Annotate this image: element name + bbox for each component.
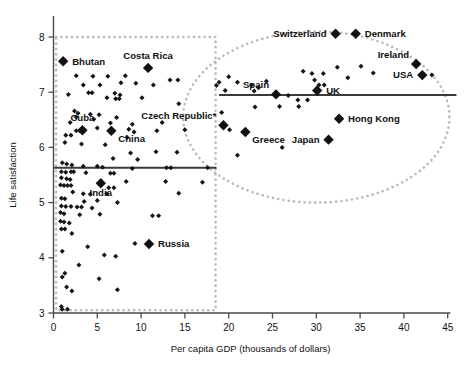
data-point: [81, 83, 86, 88]
data-point: [133, 81, 138, 86]
data-point: [227, 127, 232, 132]
data-point: [175, 78, 180, 83]
point-label: India: [90, 187, 113, 198]
data-point: [62, 227, 67, 232]
data-point: [69, 183, 74, 188]
point-label: China: [118, 133, 145, 144]
data-point: [69, 231, 74, 236]
data-point: [345, 75, 350, 80]
data-point: [111, 185, 116, 190]
x-tick-label: 15: [179, 322, 191, 333]
data-point: [95, 126, 100, 131]
data-point: [150, 213, 155, 218]
data-point: [139, 95, 144, 100]
data-point: [69, 204, 74, 209]
data-point: [79, 142, 84, 147]
data-point: [115, 200, 120, 205]
highlighted-point-marker: [218, 120, 228, 130]
highlighted-point-marker: [334, 113, 344, 123]
data-point: [60, 249, 65, 254]
data-point: [115, 287, 120, 292]
highlighted-point-marker: [271, 89, 281, 99]
highlighted-point-marker: [411, 59, 421, 69]
data-point: [277, 104, 282, 109]
data-point: [312, 78, 317, 83]
data-point: [103, 142, 108, 147]
data-point: [296, 104, 301, 109]
data-point: [295, 97, 300, 102]
x-tick-label: 10: [136, 322, 148, 333]
data-point: [153, 149, 158, 154]
data-point: [100, 165, 105, 170]
y-tick-label: 7: [39, 87, 45, 98]
data-point: [130, 122, 135, 127]
data-point: [176, 101, 181, 106]
data-point: [118, 92, 123, 97]
data-point: [97, 212, 102, 217]
highlighted-point-marker: [417, 70, 427, 80]
data-point: [59, 175, 64, 180]
y-axis-title: Life satisfaction: [7, 142, 18, 207]
data-point: [226, 74, 231, 79]
data-point: [113, 254, 118, 259]
data-point: [90, 74, 95, 79]
data-point: [301, 69, 306, 74]
data-point: [79, 205, 84, 210]
data-point: [60, 160, 65, 165]
point-labels: BhutanCosta RicaCubaChinaIndiaRussiaCzec…: [70, 28, 413, 249]
y-tick-label: 3: [39, 308, 45, 319]
region-poorer-countries-box: [56, 37, 215, 310]
data-point: [200, 180, 205, 185]
highlight-regions: [56, 31, 449, 310]
data-point: [168, 78, 173, 83]
point-label: Japan: [292, 134, 320, 145]
data-point: [76, 262, 81, 267]
x-tick-label: 35: [355, 322, 367, 333]
data-point: [128, 150, 133, 155]
highlighted-point-marker: [106, 126, 116, 136]
x-tick-label: 45: [442, 322, 454, 333]
data-point: [105, 74, 110, 79]
data-point: [77, 212, 82, 217]
data-point: [90, 90, 95, 95]
data-point: [64, 161, 69, 166]
data-point: [321, 71, 326, 76]
data-point: [156, 213, 161, 218]
data-point: [335, 65, 340, 70]
data-point: [63, 170, 68, 175]
data-point: [71, 169, 76, 174]
data-point: [108, 121, 113, 126]
data-point: [112, 91, 117, 96]
data-point: [81, 191, 86, 196]
data-point: [358, 64, 363, 69]
highlighted-point-marker: [240, 127, 250, 137]
data-point: [97, 112, 102, 117]
data-point: [252, 105, 257, 110]
y-tick-label: 5: [39, 197, 45, 208]
point-label: Russia: [158, 238, 190, 249]
data-point: [62, 271, 67, 276]
data-point: [62, 196, 67, 201]
data-point: [176, 191, 181, 196]
y-tick-label: 8: [39, 32, 45, 43]
data-point: [132, 241, 137, 246]
data-point: [124, 179, 129, 184]
data-point: [69, 288, 74, 293]
highlighted-point-marker: [58, 56, 68, 66]
point-label: Greece: [252, 134, 285, 145]
x-tick-label: 20: [223, 322, 235, 333]
data-point: [219, 110, 224, 115]
data-point: [151, 83, 156, 88]
highlighted-point-marker: [77, 125, 87, 135]
data-point: [97, 276, 102, 281]
point-label: Ireland: [378, 49, 410, 60]
data-point: [305, 97, 310, 102]
data-point: [111, 156, 116, 161]
data-point: [163, 179, 168, 184]
x-tick-label: 40: [398, 322, 410, 333]
data-point: [235, 80, 240, 85]
data-point: [83, 170, 88, 175]
plot-svg: BhutanCosta RicaCubaChinaIndiaRussiaCzec…: [0, 0, 465, 369]
data-point: [102, 253, 107, 258]
x-axis-title: Per capita GDP (thousands of dollars): [171, 343, 331, 354]
